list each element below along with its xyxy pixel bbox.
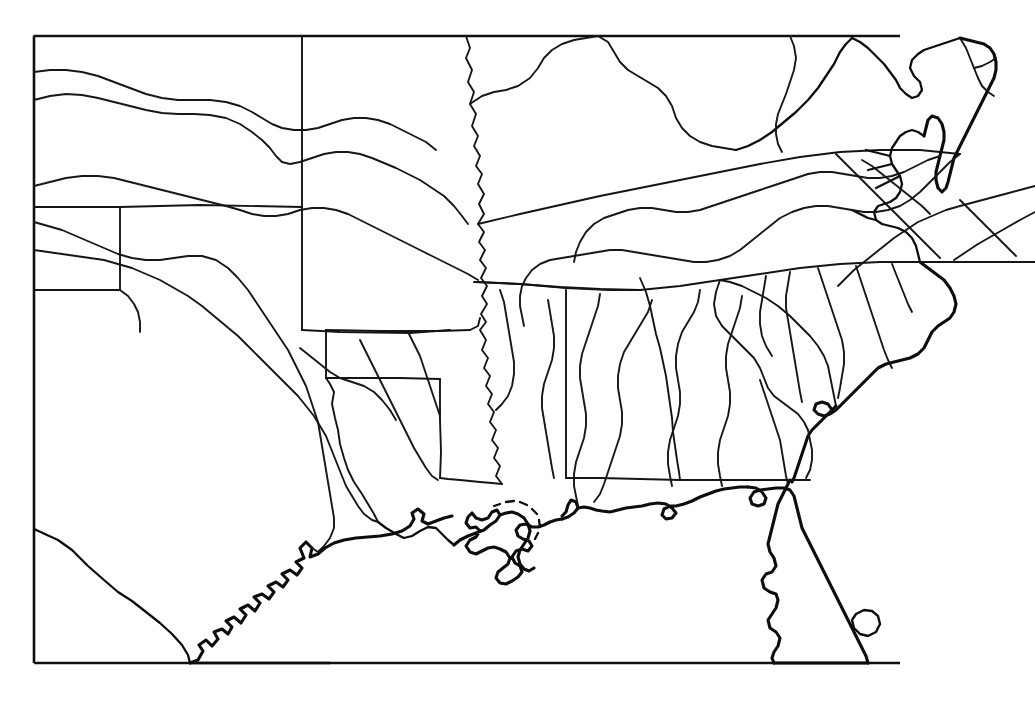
map-figure — [0, 0, 1035, 706]
map-background — [0, 0, 1035, 706]
map-canvas — [0, 0, 1035, 706]
